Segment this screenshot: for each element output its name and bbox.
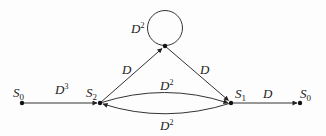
state-diagram: S0 S2 S1 S0 D3 D D2 D D2 D2 D (0, 0, 326, 136)
edge-self-loop (148, 11, 183, 46)
label-edge-top-s1: D (200, 63, 209, 76)
label-edge-s2-top: D (122, 63, 131, 76)
label-edge-lower: D2 (160, 119, 173, 132)
label-s1: S1 (235, 87, 246, 103)
label-edge-s1-s0: D (263, 87, 272, 100)
label-edge-s0-s2: D3 (55, 83, 68, 96)
node-top (163, 44, 167, 48)
label-s2: S2 (86, 86, 97, 102)
edge-s2-to-s1-upper (100, 93, 228, 104)
label-s0-right: S0 (300, 87, 311, 103)
label-edge-upper: D2 (160, 79, 173, 92)
diagram-graphics (0, 0, 326, 136)
label-s0-left: S0 (13, 86, 24, 102)
node-s2 (98, 101, 102, 105)
label-edge-loop: D2 (131, 22, 144, 35)
edge-s1-to-s2-lower (103, 103, 231, 114)
node-s1 (229, 101, 233, 105)
